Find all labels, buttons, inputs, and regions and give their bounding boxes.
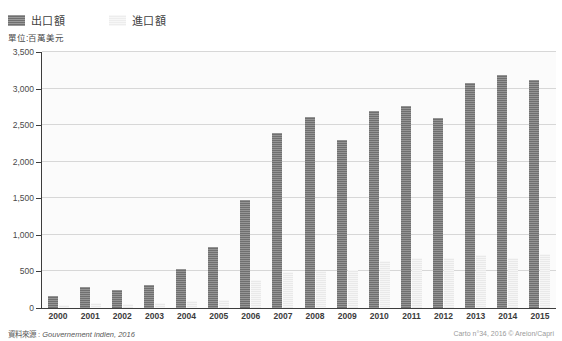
y-tick-label: 500 [0,266,34,276]
bar-import [412,258,422,308]
bar-import [219,300,229,308]
footer-source-label: 資料來源 : [8,330,40,339]
y-tick-mark [36,308,41,309]
y-tick-mark [36,52,41,53]
bar-export [433,118,443,308]
bar-group [80,52,101,308]
bar-export [529,80,539,308]
bar-import [187,301,197,308]
x-tick-label: 2003 [138,311,170,321]
y-tick-label: 0 [0,303,34,313]
legend-label-import: 進口額 [132,12,166,28]
x-tick-label: 2000 [42,311,74,321]
bar-export [401,106,411,308]
bar-import [508,258,518,308]
y-tick-label: 3,500 [0,47,34,57]
y-tick-label: 1,500 [0,193,34,203]
y-tick-label: 2,000 [0,157,34,167]
import-swatch-icon [109,15,126,26]
bar-group [48,52,69,308]
y-tick-mark [36,198,41,199]
x-tick-label: 2001 [74,311,106,321]
bar-import [283,272,293,308]
footer-credit: Carto n°34, 2016 © Areion/Capri [453,330,554,337]
bar-export [272,133,282,308]
x-tick-label: 2002 [106,311,138,321]
y-tick-mark [36,235,41,236]
bar-import [251,280,261,308]
y-tick-label: 2,500 [0,120,34,130]
bar-group [176,52,197,308]
x-axis-labels: 2000200120022003200420052006200720082009… [42,311,556,325]
bar-export [305,117,315,308]
bar-group [529,52,550,308]
x-tick-label: 2005 [203,311,235,321]
bar-export [144,285,154,308]
bar-group [144,52,165,308]
bar-export [48,296,58,308]
bar-group [401,52,422,308]
bar-export [240,200,250,308]
y-tick-mark [36,271,41,272]
legend-label-export: 出口額 [31,12,65,28]
bar-import [348,270,358,308]
footer-source-value: Gouvernement indien, 2016 [42,330,135,339]
y-tick-mark [36,125,41,126]
bar-group [240,52,261,308]
bar-export [112,290,122,308]
y-axis-labels: 05001,0001,5002,0002,5003,0003,500 [0,0,34,341]
bar-import [380,261,390,308]
chart-page: 出口額 進口額 單位:百萬美元 05001,0001,5002,0002,500… [0,0,562,341]
bar-group [497,52,518,308]
bar-export [208,247,218,308]
bar-import [540,254,550,308]
x-tick-label: 2008 [299,311,331,321]
x-tick-label: 2010 [363,311,395,321]
bar-import [444,258,454,308]
y-axis-line [41,52,42,309]
legend-item-import: 進口額 [109,12,166,28]
bar-import [476,255,486,308]
bar-group [369,52,390,308]
bar-export [465,83,475,308]
x-tick-label: 2009 [331,311,363,321]
bar-export [497,75,507,308]
bar-group [465,52,486,308]
x-tick-label: 2007 [267,311,299,321]
bar-export [80,287,90,308]
bar-group [337,52,358,308]
bar-export [337,140,347,308]
bar-group [208,52,229,308]
y-tick-mark [36,162,41,163]
bar-export [369,111,379,308]
plot-area [42,52,556,308]
x-tick-label: 2013 [460,311,492,321]
x-tick-label: 2012 [428,311,460,321]
x-tick-label: 2015 [524,311,556,321]
bar-group [305,52,326,308]
y-tick-label: 1,000 [0,230,34,240]
y-tick-mark [36,89,41,90]
footer-source: 資料來源 : Gouvernement indien, 2016 [8,328,135,339]
x-tick-label: 2011 [395,311,427,321]
x-tick-label: 2004 [171,311,203,321]
bar-group [112,52,133,308]
bar-import [316,271,326,308]
bar-group [272,52,293,308]
x-axis-line [42,308,556,309]
y-tick-label: 3,000 [0,84,34,94]
bar-export [176,269,186,308]
bar-group [433,52,454,308]
x-tick-label: 2014 [492,311,524,321]
x-tick-label: 2006 [235,311,267,321]
